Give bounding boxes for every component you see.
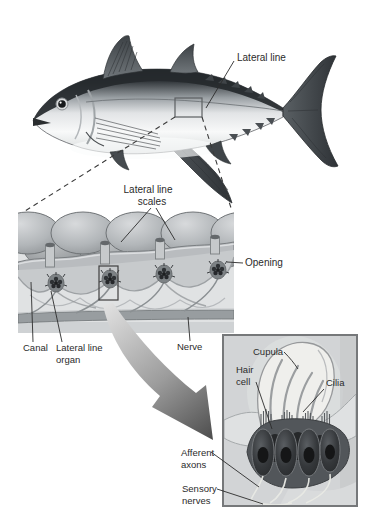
- scales-cross-section: [0, 212, 275, 333]
- canal-label: Canal: [23, 342, 48, 353]
- scales-label-line1: Lateral line: [124, 184, 173, 195]
- organ-label-line1: Lateral line: [56, 342, 102, 353]
- scales-label-line2: scales: [138, 196, 166, 207]
- afferent-axons-label-line1: Afferent: [181, 447, 214, 458]
- neuromast-inset: Cupula Hair cell Cilia: [223, 335, 357, 506]
- hair-cell-label-line1: Hair: [236, 364, 253, 375]
- organ-label-line2: organ: [56, 354, 80, 365]
- fish-illustration: [33, 36, 338, 203]
- afferent-axons-label-line2: axons: [181, 459, 207, 470]
- hair-cell-label-line2: cell: [236, 376, 250, 387]
- lateral-line-diagram: Lateral line: [0, 0, 366, 523]
- sensory-nerves-label-line2: nerves: [182, 495, 211, 506]
- sensory-nerves-label-line1: Sensory: [182, 483, 217, 494]
- opening-label: Opening: [245, 257, 283, 268]
- fish-eye: [56, 98, 68, 110]
- nerve-label: Nerve: [177, 341, 202, 352]
- diagram-canvas: Lateral line: [0, 0, 366, 523]
- cupula-label: Cupula: [253, 346, 284, 357]
- lateral-line-label: Lateral line: [237, 52, 286, 63]
- cilia-label: Cilia: [326, 377, 345, 388]
